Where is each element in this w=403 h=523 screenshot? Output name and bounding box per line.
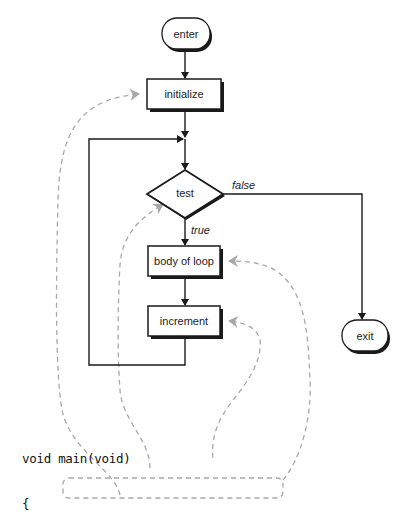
code-listing: void main(void) { int count; for (count=…: [22, 421, 260, 523]
node-enter-label: enter: [173, 28, 198, 40]
flow-lines: [89, 50, 362, 365]
node-body-label: body of loop: [154, 255, 214, 267]
node-initialize-label: initialize: [164, 88, 203, 100]
edge-label-false: false: [232, 179, 255, 191]
node-body-of-loop: body of loop: [148, 246, 223, 279]
node-enter: enter: [162, 18, 212, 52]
code-line-2: {: [22, 496, 260, 511]
node-test: test: [147, 170, 225, 220]
node-exit: exit: [342, 320, 390, 354]
node-increment: increment: [148, 306, 223, 339]
node-exit-label: exit: [356, 330, 373, 342]
node-increment-label: increment: [160, 315, 208, 327]
node-test-label: test: [176, 187, 194, 199]
node-initialize: initialize: [147, 79, 224, 112]
edge-label-true: true: [191, 224, 210, 236]
code-line-1: void main(void): [22, 451, 260, 466]
